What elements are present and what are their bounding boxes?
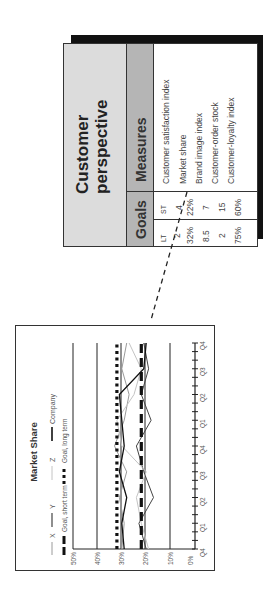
value-tick-labels: 50% 40% 30% 20% 10% 0% [70, 552, 194, 565]
xtick-6: Q2 [199, 393, 207, 402]
xtick-0: Q4 [199, 548, 207, 557]
xtick-7: Q3 [199, 367, 207, 376]
xtick-3: Q3 [199, 471, 207, 480]
ytick-0: 0% [187, 555, 194, 565]
legend-goal-short-label: Goal, short term [61, 485, 68, 532]
ytick-10: 10% [167, 552, 174, 565]
ytick-50: 50% [70, 552, 77, 565]
series-layer [115, 343, 154, 549]
series-z [117, 343, 149, 549]
legend-company-label: Company [49, 394, 57, 424]
ytick-30: 30% [118, 552, 125, 565]
xtick-2: Q2 [199, 497, 207, 506]
legend-goal-long-label: Goal, long term [61, 419, 69, 463]
category-tick-labels: Q4 Q1 Q2 Q3 Q4 Q1 Q2 Q3 Q4 [199, 341, 207, 557]
legend-y-label: Y [49, 504, 56, 509]
xtick-1: Q1 [199, 523, 207, 532]
xtick-4: Q4 [199, 445, 207, 454]
market-share-chart: Market Share X Y Z Company Goal, short t… [0, 0, 272, 591]
legend-x-label: X [49, 533, 56, 538]
chart-title: Market Share [28, 422, 39, 482]
xtick-5: Q1 [199, 419, 207, 428]
legend-z-label: Z [49, 457, 56, 462]
xtick-8: Q4 [199, 341, 207, 350]
legend: X Y Z Company Goal, short term Goal, lon… [49, 394, 69, 555]
ytick-40: 40% [94, 552, 101, 565]
ytick-20: 20% [142, 552, 149, 565]
